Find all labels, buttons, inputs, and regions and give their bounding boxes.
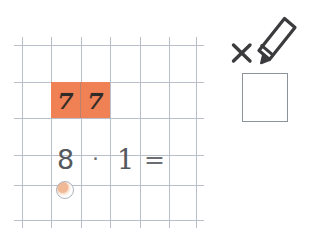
digit-cell-operand-one[interactable]: 8	[51, 141, 80, 177]
pencil-icon[interactable]	[251, 14, 299, 70]
grid-line-vertical	[51, 37, 52, 228]
grid-line-vertical	[140, 37, 141, 228]
digit-cell-seven-second[interactable]: 7	[81, 82, 110, 118]
digit-cell-seven-first[interactable]: 7	[51, 82, 80, 118]
circle-marker[interactable]	[56, 181, 74, 199]
grid-line-horizontal	[14, 185, 204, 186]
grid-line-vertical	[196, 37, 197, 228]
equals-sign: =	[140, 141, 169, 177]
grid-line-vertical	[81, 37, 82, 228]
multiplication-x-icon	[231, 42, 253, 64]
grid-line-horizontal	[14, 118, 204, 119]
grid-line-vertical	[169, 37, 170, 228]
worksheet-area: 7 7 8 · 1 =	[0, 0, 215, 229]
multiply-pencil-tool-group[interactable]	[229, 14, 309, 72]
answer-input-box[interactable]	[242, 73, 288, 122]
multiplication-dot-operator: ·	[81, 141, 110, 177]
tool-panel	[215, 0, 315, 229]
grid-line-horizontal	[14, 220, 204, 221]
grid-line-horizontal	[14, 45, 204, 46]
grid-line-vertical	[22, 37, 23, 228]
graph-paper-grid	[22, 45, 196, 220]
digit-cell-operand-two[interactable]: 1	[111, 141, 140, 177]
grid-line-vertical	[110, 37, 111, 228]
